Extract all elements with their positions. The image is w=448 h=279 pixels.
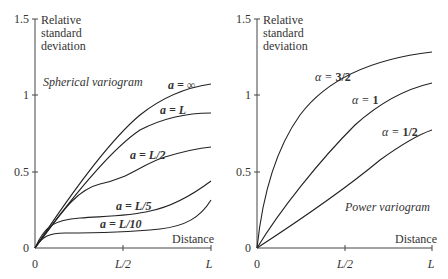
x-tick-half: L/2 bbox=[114, 257, 131, 271]
label-a-L5: a = L/5 bbox=[116, 199, 152, 213]
y-axis-label-1: Relative bbox=[41, 13, 81, 27]
y-tick-1: 1 bbox=[245, 88, 251, 102]
y-tick-1: 1 bbox=[23, 88, 29, 102]
curve-alpha-1 bbox=[257, 83, 432, 248]
y-axis-label-3: deviation bbox=[41, 39, 86, 53]
variogram-figure: 1.5 1 0.5 0 0 L/2 L Relative standard de… bbox=[0, 0, 448, 279]
y-axis-label-3: deviation bbox=[263, 39, 308, 53]
panel-title: Spherical variogram bbox=[43, 75, 143, 89]
curve-alpha-1-2 bbox=[257, 130, 432, 248]
label-a-L2: a = L/2 bbox=[130, 148, 166, 162]
y-tick-0.5: 0.5 bbox=[236, 165, 251, 179]
panel-title: Power variogram bbox=[344, 200, 430, 214]
spherical-variogram-panel: 1.5 1 0.5 0 0 L/2 L Relative standard de… bbox=[14, 12, 214, 271]
y-tick-0: 0 bbox=[23, 241, 29, 255]
y-tick-1.5: 1.5 bbox=[14, 12, 29, 26]
x-tick-half: L/2 bbox=[336, 257, 353, 271]
x-axis-label: Distance bbox=[172, 232, 214, 246]
x-tick-0: 0 bbox=[254, 257, 260, 271]
label-alpha-1-2: α = 1/2 bbox=[382, 125, 418, 139]
x-axis-label: Distance bbox=[395, 232, 437, 246]
label-alpha-3-2: α = 3/2 bbox=[315, 70, 351, 84]
y-axis-label-1: Relative bbox=[263, 13, 303, 27]
y-axis-label-2: standard bbox=[41, 26, 82, 40]
y-axis-label-2: standard bbox=[263, 26, 304, 40]
x-tick-L: L bbox=[427, 257, 435, 271]
x-tick-0: 0 bbox=[32, 257, 38, 271]
label-alpha-1: α = 1 bbox=[352, 93, 378, 107]
power-variogram-panel: 1.5 1 0.5 0 0 L/2 L Relative standard de… bbox=[236, 12, 437, 271]
x-tick-L: L bbox=[205, 257, 213, 271]
label-a-inf: a = ∞ bbox=[168, 78, 195, 92]
y-tick-1.5: 1.5 bbox=[236, 12, 251, 26]
label-a-L: a = L bbox=[160, 103, 186, 117]
label-a-L10: a = L/10 bbox=[100, 217, 142, 231]
y-tick-0: 0 bbox=[245, 241, 251, 255]
y-tick-0.5: 0.5 bbox=[14, 165, 29, 179]
